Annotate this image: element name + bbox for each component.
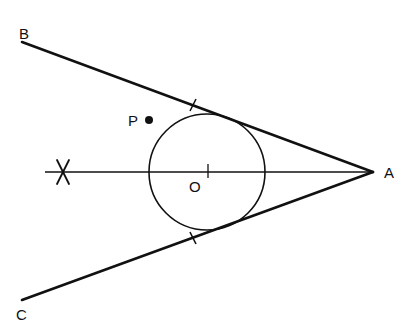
point-p-dot [145,116,153,124]
geometry-diagram: B C A O P [0,0,415,331]
label-c: C [16,306,27,323]
label-p: P [128,112,138,129]
tangent-line-ab [22,42,373,172]
label-b: B [19,25,29,42]
label-o: O [189,178,201,195]
label-a: A [384,164,394,181]
